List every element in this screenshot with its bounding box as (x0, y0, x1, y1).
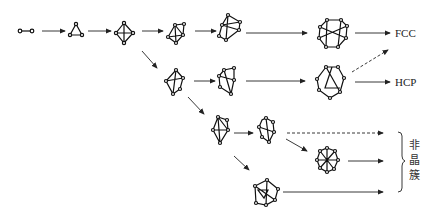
hcp-label: HCP (395, 76, 416, 88)
tetrahedron-cluster (114, 21, 134, 44)
cluster-6a (218, 14, 242, 42)
icosahedral-cluster (316, 147, 340, 174)
cluster-8d (254, 179, 280, 207)
cluster-growth-diagram (0, 0, 428, 219)
cluster-5a (167, 23, 186, 45)
amorphous-label: 非 晶 簇 (408, 138, 420, 183)
trimer-cluster (68, 22, 83, 36)
clusters (18, 14, 348, 207)
fcc-label: FCC (395, 27, 416, 39)
hcp-cluster (316, 66, 346, 100)
cluster-6b (218, 67, 236, 96)
amorphous-char-1: 非 (408, 138, 420, 153)
cluster-7c (258, 117, 276, 144)
cluster-5b (165, 69, 185, 96)
amorphous-char-3: 簇 (408, 168, 420, 183)
amorphous-char-2: 晶 (408, 153, 420, 168)
cluster-6c (212, 116, 230, 145)
fcc-cluster (318, 19, 349, 49)
dimer-cluster (18, 29, 34, 33)
